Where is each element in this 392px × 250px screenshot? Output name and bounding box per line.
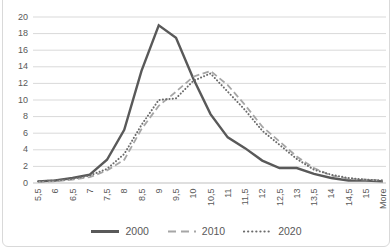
x-tick-label: 6 xyxy=(50,188,61,216)
y-tick-label: 14 xyxy=(6,61,28,72)
y-tick-label: 6 xyxy=(6,128,28,139)
legend-line-sample-solid xyxy=(90,229,120,234)
x-tick-label: 14 xyxy=(326,188,337,216)
x-tick-label: 15 xyxy=(360,188,371,216)
y-tick-label: 10 xyxy=(6,95,28,106)
legend-line-sample-dotted xyxy=(243,229,273,234)
x-tick-label: 12,5 xyxy=(274,188,285,216)
legend-label: 2020 xyxy=(278,225,301,237)
series-line-2000 xyxy=(38,25,383,181)
legend-item-2010: 2010 xyxy=(167,225,225,237)
legend-item-2020: 2020 xyxy=(243,225,301,237)
x-tick-label: 10,5 xyxy=(205,188,216,216)
legend-item-2000: 2000 xyxy=(90,225,148,237)
series-line-2020 xyxy=(38,73,383,181)
y-tick-label: 18 xyxy=(6,28,28,39)
y-tick-label: 2 xyxy=(6,161,28,172)
x-tick-label: 5,5 xyxy=(33,188,44,216)
y-tick-label: 4 xyxy=(6,144,28,155)
chart-window: Histogram of average rating distribution… xyxy=(0,0,392,250)
x-tick-label: More xyxy=(378,188,389,216)
x-tick-label: 8,5 xyxy=(136,188,147,216)
x-tick-label: 10 xyxy=(188,188,199,216)
x-tick-label: 8 xyxy=(119,188,130,216)
x-tick-label: 9,5 xyxy=(171,188,182,216)
legend-label: 2000 xyxy=(125,225,148,237)
x-tick-label: 12 xyxy=(257,188,268,216)
y-tick-label: 0 xyxy=(6,178,28,189)
x-tick-label: 13,5 xyxy=(309,188,320,216)
legend-line-sample-dashed xyxy=(167,229,197,234)
x-tick-label: 14,5 xyxy=(343,188,354,216)
x-tick-label: 6,5 xyxy=(67,188,78,216)
y-tick-label: 20 xyxy=(6,12,28,23)
x-tick-label: 13 xyxy=(291,188,302,216)
y-tick-label: 16 xyxy=(6,45,28,56)
series-line-2010 xyxy=(38,71,383,182)
legend-label: 2010 xyxy=(202,225,225,237)
x-tick-label: 9 xyxy=(153,188,164,216)
x-tick-label: 7 xyxy=(84,188,95,216)
x-tick-label: 11,5 xyxy=(240,188,251,216)
y-tick-label: 8 xyxy=(6,111,28,122)
y-tick-label: 12 xyxy=(6,78,28,89)
chart-legend: 200020102020 xyxy=(0,223,392,239)
x-tick-label: 7,5 xyxy=(102,188,113,216)
x-tick-label: 11 xyxy=(222,188,233,216)
